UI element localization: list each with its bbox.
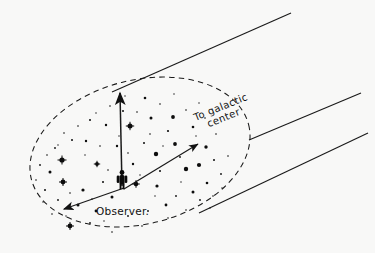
galactic-center-arrow bbox=[124, 144, 198, 189]
star-faint bbox=[143, 142, 145, 144]
star-medium bbox=[111, 196, 114, 199]
star-faint bbox=[215, 133, 217, 135]
star-faint bbox=[111, 231, 113, 233]
star-medium bbox=[85, 140, 87, 142]
star-medium bbox=[116, 145, 118, 147]
star-faint bbox=[102, 181, 104, 183]
star-faint bbox=[139, 174, 140, 175]
star-faint bbox=[57, 144, 58, 145]
star-faint bbox=[220, 173, 222, 175]
star-faint bbox=[141, 225, 143, 227]
star-faint bbox=[199, 199, 201, 201]
star-medium bbox=[173, 142, 177, 146]
star-faint bbox=[39, 164, 41, 166]
star-medium bbox=[192, 126, 195, 129]
star-faint bbox=[57, 199, 59, 201]
star-faint bbox=[89, 222, 91, 224]
star-medium bbox=[150, 117, 153, 120]
star-faint bbox=[221, 187, 222, 188]
star-faint bbox=[209, 207, 210, 208]
star-faint bbox=[54, 147, 56, 149]
star-medium bbox=[81, 188, 84, 191]
star-faint bbox=[124, 95, 125, 96]
star-medium bbox=[171, 115, 175, 119]
star-faint bbox=[154, 195, 155, 196]
star-faint bbox=[159, 170, 161, 172]
star-faint bbox=[89, 119, 91, 121]
star-spike bbox=[66, 222, 74, 230]
star-faint bbox=[118, 135, 119, 136]
star-spike bbox=[59, 178, 67, 186]
star-faint bbox=[109, 105, 111, 107]
star-medium bbox=[204, 145, 207, 148]
star-faint bbox=[167, 217, 169, 219]
star-faint bbox=[77, 125, 79, 127]
star-faint bbox=[185, 109, 187, 111]
star-faint bbox=[84, 154, 85, 155]
star-faint bbox=[65, 215, 66, 216]
star-faint bbox=[136, 111, 138, 113]
star-faint bbox=[46, 154, 48, 156]
star-faint bbox=[44, 189, 46, 191]
star-faint bbox=[185, 209, 187, 211]
star-medium bbox=[206, 182, 209, 185]
star-medium bbox=[192, 191, 195, 194]
star-faint bbox=[167, 130, 169, 132]
star-spike bbox=[58, 156, 67, 165]
star-bright bbox=[197, 163, 201, 167]
star-faint bbox=[127, 152, 129, 154]
star-medium bbox=[165, 204, 168, 207]
star-faint bbox=[51, 213, 53, 215]
star-faint bbox=[42, 201, 43, 202]
star-faint bbox=[71, 139, 73, 141]
star-medium bbox=[132, 163, 134, 165]
star-medium bbox=[144, 97, 147, 100]
star-medium bbox=[49, 171, 52, 174]
star-spike bbox=[126, 122, 134, 130]
galactic-neighborhood-figure: Observer. To galactic center bbox=[0, 0, 375, 253]
star-faint bbox=[69, 192, 71, 194]
star-faint bbox=[173, 93, 174, 94]
direction-arrows-group bbox=[64, 93, 198, 209]
star-faint bbox=[227, 155, 229, 157]
star-faint bbox=[35, 179, 37, 181]
star-faint bbox=[162, 145, 163, 146]
observer-label: Observer. bbox=[96, 205, 149, 217]
galactic-center-label: To galactic center bbox=[191, 91, 253, 133]
halo-boundary bbox=[14, 55, 266, 249]
star-medium bbox=[155, 184, 158, 187]
star-faint bbox=[99, 145, 101, 147]
star-bright bbox=[154, 152, 158, 156]
star-faint bbox=[122, 110, 124, 112]
star-faint bbox=[95, 112, 96, 113]
star-faint bbox=[179, 156, 181, 158]
star-faint bbox=[175, 195, 177, 197]
cone-line-upper bbox=[112, 13, 291, 92]
star-faint bbox=[195, 135, 196, 136]
star-faint bbox=[63, 132, 65, 134]
star-faint bbox=[149, 133, 151, 135]
star-faint bbox=[180, 181, 181, 182]
star-medium bbox=[105, 124, 107, 126]
star-bright bbox=[184, 167, 188, 171]
cone-line-lower bbox=[199, 133, 368, 213]
star-spike bbox=[94, 161, 100, 167]
star-faint bbox=[198, 102, 199, 103]
star-faint bbox=[212, 195, 214, 197]
diagram-canvas: Observer. To galactic center bbox=[0, 0, 375, 253]
star-faint bbox=[103, 220, 104, 221]
star-faint bbox=[159, 103, 161, 105]
star-faint bbox=[107, 169, 109, 171]
cone-line-middle bbox=[249, 93, 361, 140]
star-faint bbox=[213, 159, 215, 161]
observer-figure bbox=[117, 170, 128, 189]
